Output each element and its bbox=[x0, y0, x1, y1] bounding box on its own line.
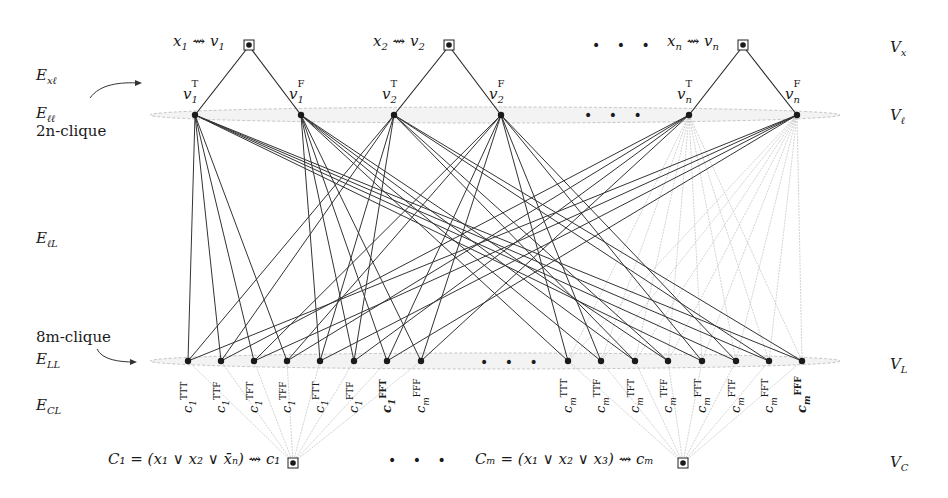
arrow-2n-clique bbox=[90, 83, 140, 98]
assignment-node bbox=[185, 358, 191, 364]
literal-edge bbox=[320, 115, 394, 361]
clause-ellipsis: • • • bbox=[388, 452, 452, 468]
literal-edge-light bbox=[668, 115, 797, 361]
literal-label-2F: vF2 bbox=[489, 87, 504, 105]
label-8m-clique: 8m-clique bbox=[36, 330, 111, 345]
clause-edge bbox=[293, 361, 387, 463]
clause-m-label: Cₘ = (x₁ ∨ x₂ ∨ x₃) ⇝ cₘ bbox=[475, 452, 654, 467]
variable-node bbox=[246, 42, 252, 48]
literal-node bbox=[391, 112, 397, 118]
assignment-node bbox=[418, 358, 424, 364]
variable-literal-edge bbox=[394, 46, 449, 115]
label-v-x: Vx bbox=[890, 40, 906, 58]
arrowhead-8m-clique bbox=[130, 359, 137, 365]
assignment-label-1TTT: c1TTT bbox=[180, 382, 198, 413]
literal-node bbox=[686, 112, 692, 118]
assignment-node bbox=[251, 358, 257, 364]
assignment-label-1TFF: c1TFF bbox=[279, 381, 297, 413]
literal-edge bbox=[195, 115, 802, 361]
assignment-label-mTTT: cmTTT bbox=[560, 379, 578, 413]
clause-node bbox=[290, 460, 296, 466]
assignment-label-1FTT: c1FTT bbox=[312, 382, 330, 413]
literal-edge bbox=[501, 115, 601, 361]
assignment-node bbox=[565, 358, 571, 364]
assignment-label-mTFF: cmTFF bbox=[660, 379, 678, 413]
reduction-graph bbox=[0, 0, 948, 498]
label-v-L: VL bbox=[890, 357, 907, 375]
dark-edges bbox=[188, 115, 802, 361]
variable-literal-edge bbox=[689, 46, 743, 115]
label-v-l: Vℓ bbox=[890, 108, 905, 126]
literal-edge bbox=[301, 115, 320, 361]
variable-label-n: xn ⇝ vn bbox=[667, 34, 719, 52]
assignment-node bbox=[699, 358, 705, 364]
variable-label-2: x2 ⇝ v2 bbox=[373, 34, 425, 52]
arrow-8m-clique bbox=[97, 349, 134, 362]
assignment-node bbox=[632, 358, 638, 364]
clause-1-label: C₁ = (x₁ ∨ x₂ ∨ x̄ₙ) ⇝ c₁ bbox=[108, 452, 280, 467]
assignment-node bbox=[766, 358, 772, 364]
clause-edge bbox=[188, 361, 293, 463]
literal-node bbox=[298, 112, 304, 118]
literal-node bbox=[794, 112, 800, 118]
literal-edge bbox=[221, 115, 394, 361]
assignment-label-1TTF: c1TTF bbox=[213, 382, 231, 413]
literal-edge bbox=[195, 115, 769, 361]
literal-edge bbox=[195, 115, 287, 361]
assignment-node bbox=[218, 358, 224, 364]
assignment-label-mFTT: cmFTT bbox=[694, 379, 712, 413]
arrowhead-2n-clique bbox=[135, 80, 142, 86]
literal-edge bbox=[301, 115, 635, 361]
clause-node bbox=[680, 460, 686, 466]
variable-node bbox=[446, 42, 452, 48]
assignment-label-mFFF: cmFFF bbox=[794, 376, 812, 413]
label-2n-clique: 2n-clique bbox=[36, 124, 106, 139]
literal-edge bbox=[195, 115, 254, 361]
literal-edge bbox=[188, 115, 195, 361]
assignment-label-1FFT: c1FFT bbox=[379, 379, 397, 413]
assignment-label-mTTF: cmTTF bbox=[593, 379, 611, 413]
literal-edge-light bbox=[601, 115, 689, 361]
assignment-node bbox=[384, 358, 390, 364]
literal-label-1T: vT1 bbox=[183, 87, 198, 105]
label-e-xl: Exℓ bbox=[36, 68, 57, 86]
assignment-node bbox=[351, 358, 357, 364]
variable-node bbox=[740, 42, 746, 48]
literal-edge-light bbox=[635, 115, 689, 361]
literal-label-1F: vF1 bbox=[289, 87, 304, 105]
literal-edge bbox=[195, 115, 736, 361]
literal-label-2T: vT2 bbox=[382, 87, 397, 105]
label-v-C: VC bbox=[890, 455, 909, 473]
assignment-node bbox=[665, 358, 671, 364]
literal-edge bbox=[354, 115, 689, 361]
assignment-label-mFFF: cmFFF bbox=[413, 378, 431, 413]
assignment-label-mFTF: cmFTF bbox=[728, 379, 746, 413]
assignment-label-mTFT: cmTFT bbox=[627, 379, 645, 413]
label-e-LL: ELL bbox=[36, 352, 60, 370]
assignment-node bbox=[598, 358, 604, 364]
literal-edge bbox=[195, 115, 221, 361]
assignment-label-mFFT: cmFFT bbox=[761, 379, 779, 413]
label-e-CL: ECL bbox=[36, 398, 61, 416]
assignment-node bbox=[733, 358, 739, 364]
literal-edge-light bbox=[601, 115, 797, 361]
literal-node bbox=[192, 112, 198, 118]
assignment-node bbox=[317, 358, 323, 364]
literal-node bbox=[498, 112, 504, 118]
literal-ellipsis: • • • bbox=[584, 107, 648, 123]
literal-label-nT: vTn bbox=[677, 87, 692, 105]
variable-label-1: x1 ⇝ v1 bbox=[173, 34, 225, 52]
literal-edge-light bbox=[797, 115, 802, 361]
literal-edge bbox=[320, 115, 797, 361]
label-e-lL: EℓL bbox=[36, 231, 58, 249]
variable-ellipsis: • • • bbox=[592, 37, 656, 53]
literal-edge bbox=[188, 115, 797, 361]
literal-edge-light bbox=[689, 115, 702, 361]
literal-edge bbox=[301, 115, 668, 361]
assignment-label-1FTF: c1FTF bbox=[346, 381, 364, 413]
assignment-label-1TFT: c1TFT bbox=[246, 382, 264, 413]
assignment-ellipsis: • • • bbox=[480, 354, 544, 370]
variable-literal-edge bbox=[195, 46, 249, 115]
literal-label-nF: vFn bbox=[785, 87, 800, 105]
assignment-node bbox=[799, 358, 805, 364]
